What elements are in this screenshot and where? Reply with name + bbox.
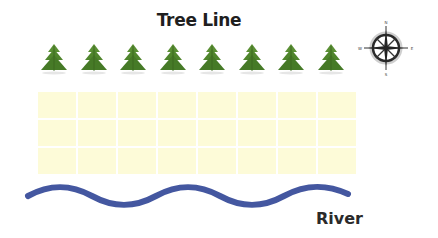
grid-cell xyxy=(78,120,116,146)
pine-tree-icon xyxy=(38,42,70,76)
grid-cell xyxy=(198,148,236,174)
pine-tree-icon xyxy=(78,42,110,76)
pine-tree-icon xyxy=(117,42,149,76)
compass-north-label: N xyxy=(385,20,388,25)
pine-tree-icon xyxy=(315,42,347,76)
river-label: River xyxy=(316,209,363,228)
grid-cell xyxy=(198,92,236,118)
grid-cell xyxy=(198,120,236,146)
plot-grid xyxy=(38,92,356,174)
pine-tree-icon xyxy=(236,42,268,76)
grid-cell xyxy=(278,148,316,174)
pine-tree-icon xyxy=(157,42,189,76)
grid-cell xyxy=(158,120,196,146)
grid-cell xyxy=(38,120,76,146)
grid-cell xyxy=(118,120,156,146)
grid-cell xyxy=(278,92,316,118)
grid-cell xyxy=(38,92,76,118)
grid-cell xyxy=(278,120,316,146)
river-wave-icon xyxy=(20,180,360,210)
grid-cell xyxy=(78,92,116,118)
compass-east-label: E xyxy=(411,46,414,51)
grid-cell xyxy=(318,92,356,118)
pine-tree-icon xyxy=(196,42,228,76)
grid-cell xyxy=(158,92,196,118)
grid-cell xyxy=(238,148,276,174)
compass-west-label: W xyxy=(358,46,362,51)
compass-rose-icon: N S W E xyxy=(356,18,416,78)
grid-cell xyxy=(318,148,356,174)
grid-cell xyxy=(238,92,276,118)
grid-cell xyxy=(158,148,196,174)
grid-cell xyxy=(78,148,116,174)
grid-cell xyxy=(238,120,276,146)
grid-cell xyxy=(118,92,156,118)
grid-cell xyxy=(118,148,156,174)
compass-south-label: S xyxy=(385,72,388,77)
grid-cell xyxy=(38,148,76,174)
pine-tree-icon xyxy=(275,42,307,76)
grid-cell xyxy=(318,120,356,146)
